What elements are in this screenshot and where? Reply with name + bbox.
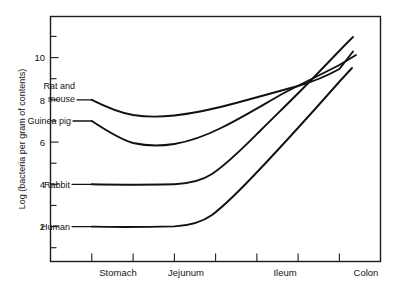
y-tick-label-8: 8 bbox=[40, 95, 45, 106]
x-tick-label-colon: Colon bbox=[354, 267, 379, 278]
x-tick-label-ileum: Ileum bbox=[273, 267, 296, 278]
series-label-rat-and-mouse-line2: mouse bbox=[48, 94, 75, 104]
series-label-rat-and-mouse-line1: Rat and bbox=[43, 81, 75, 91]
chart-figure: 10 8 6 4 2 Log (bacteria per gram of con… bbox=[0, 0, 401, 298]
y-tick-label-10: 10 bbox=[34, 52, 45, 63]
x-tick-label-jejunum: Jejunum bbox=[168, 267, 204, 278]
x-tick-label-stomach: Stomach bbox=[99, 267, 137, 278]
bacteria-distribution-line-chart: 10 8 6 4 2 Log (bacteria per gram of con… bbox=[0, 0, 401, 298]
series-label-human: Human bbox=[41, 222, 70, 232]
series-label-guinea-pig: Guinea pig bbox=[27, 116, 71, 126]
chart-background bbox=[0, 0, 401, 298]
series-label-rabbit: Rabbit bbox=[44, 180, 71, 190]
y-axis-title: Log (bacteria per gram of contents) bbox=[17, 69, 27, 210]
y-tick-label-6: 6 bbox=[40, 137, 45, 148]
